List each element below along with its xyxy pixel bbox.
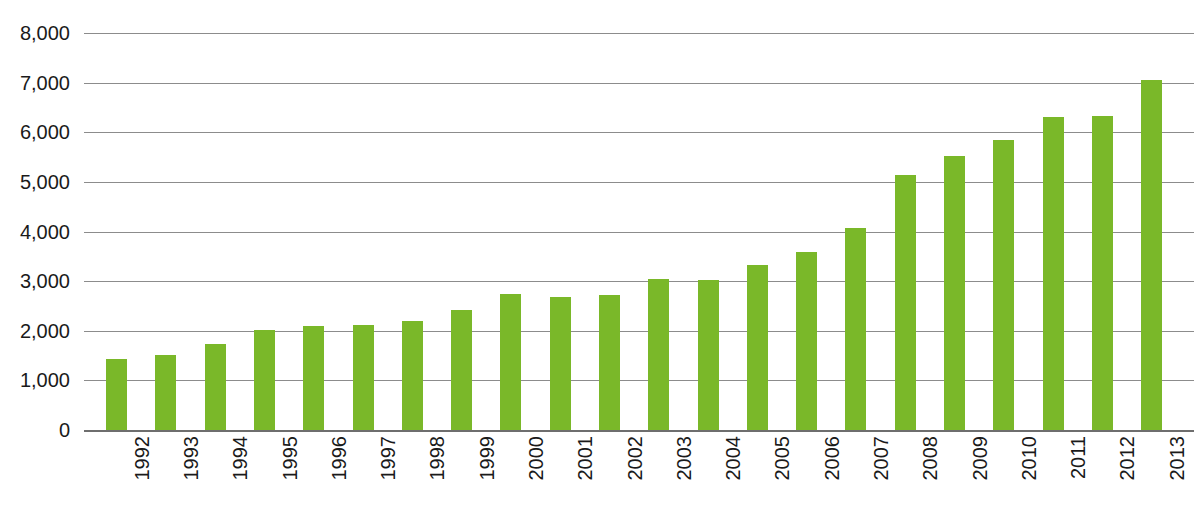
plot-area: 01,0002,0003,0004,0005,0006,0007,0008,00… (84, 33, 1194, 430)
x-tick-label-2005: 2005 (772, 436, 792, 481)
x-tick-label-1998: 1998 (427, 436, 447, 481)
x-tick-label-1995: 1995 (280, 436, 300, 481)
x-tick-label-2013: 2013 (1167, 436, 1187, 481)
x-tick-label-2012: 2012 (1117, 436, 1137, 481)
x-tick-label-1996: 1996 (329, 436, 349, 481)
y-tick-label: 8,000 (0, 23, 70, 43)
y-tick-label: 6,000 (0, 122, 70, 142)
bar-2009 (944, 156, 965, 430)
x-tick-label-2008: 2008 (920, 436, 940, 481)
bar-2004 (698, 280, 719, 430)
x-tick-label-2001: 2001 (575, 436, 595, 481)
x-axis-labels: 1992199319941995199619971998199920002001… (84, 436, 1194, 498)
x-tick-label-2003: 2003 (674, 436, 694, 481)
bar-2005 (747, 265, 768, 430)
bar-2012 (1092, 116, 1113, 430)
y-tick-label: 4,000 (0, 222, 70, 242)
x-tick-label-1997: 1997 (378, 436, 398, 481)
chart-caption-fragment (0, 515, 1202, 525)
x-tick-label-2010: 2010 (1019, 436, 1039, 481)
bars-layer (84, 33, 1194, 430)
bar-1995 (254, 330, 275, 430)
x-tick-label-2004: 2004 (723, 436, 743, 481)
bar-2011 (1043, 117, 1064, 430)
y-tick-label: 2,000 (0, 321, 70, 341)
bar-2006 (796, 252, 817, 430)
bar-1998 (402, 321, 423, 430)
bar-2000 (500, 294, 521, 430)
y-tick-label: 5,000 (0, 172, 70, 192)
y-tick-label: 0 (0, 420, 70, 440)
bar-1999 (451, 310, 472, 430)
bar-2001 (550, 297, 571, 430)
bar-2008 (895, 175, 916, 430)
x-tick-label-2006: 2006 (822, 436, 842, 481)
x-tick-label-2009: 2009 (970, 436, 990, 481)
bar-2002 (599, 295, 620, 430)
bar-1996 (303, 326, 324, 430)
bar-2003 (648, 279, 669, 430)
x-tick-label-1994: 1994 (230, 436, 250, 481)
bar-2013 (1141, 80, 1162, 430)
x-tick-label-2011: 2011 (1068, 436, 1088, 479)
x-tick-label-1992: 1992 (132, 436, 152, 481)
y-tick-label: 3,000 (0, 271, 70, 291)
x-tick-label-1993: 1993 (181, 436, 201, 481)
y-tick-label: 7,000 (0, 73, 70, 93)
x-tick-label-2000: 2000 (526, 436, 546, 481)
gridline-0 (84, 430, 1194, 432)
x-tick-label-1999: 1999 (477, 436, 497, 481)
x-tick-label-2002: 2002 (625, 436, 645, 481)
chart-title-fragment (0, 0, 1202, 6)
bar-1994 (205, 344, 226, 430)
bar-2010 (993, 140, 1014, 430)
bar-1992 (106, 359, 127, 430)
bar-1993 (155, 355, 176, 430)
y-tick-label: 1,000 (0, 370, 70, 390)
bar-2007 (845, 228, 866, 430)
bar-1997 (353, 325, 374, 430)
x-tick-label-2007: 2007 (871, 436, 891, 481)
bar-chart: 01,0002,0003,0004,0005,0006,0007,0008,00… (0, 0, 1202, 525)
